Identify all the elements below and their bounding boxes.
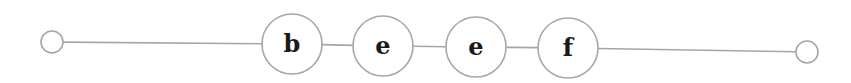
edge-line xyxy=(598,49,796,52)
edges xyxy=(63,42,796,52)
node-label: e xyxy=(468,32,483,61)
linked-list-diagram: beef xyxy=(0,0,851,83)
edge-line xyxy=(322,45,353,46)
list-node: f xyxy=(538,18,598,78)
list-node: b xyxy=(262,14,322,74)
list-node: e xyxy=(446,17,506,77)
start-terminal-circle xyxy=(41,31,63,53)
end-terminal xyxy=(796,41,818,63)
start-terminal xyxy=(41,31,63,53)
end-terminal-circle xyxy=(796,41,818,63)
list-node: e xyxy=(353,16,413,76)
node-label: b xyxy=(284,29,301,58)
node-label: f xyxy=(563,33,575,62)
node-label: e xyxy=(375,31,390,60)
edge-line xyxy=(63,42,262,44)
